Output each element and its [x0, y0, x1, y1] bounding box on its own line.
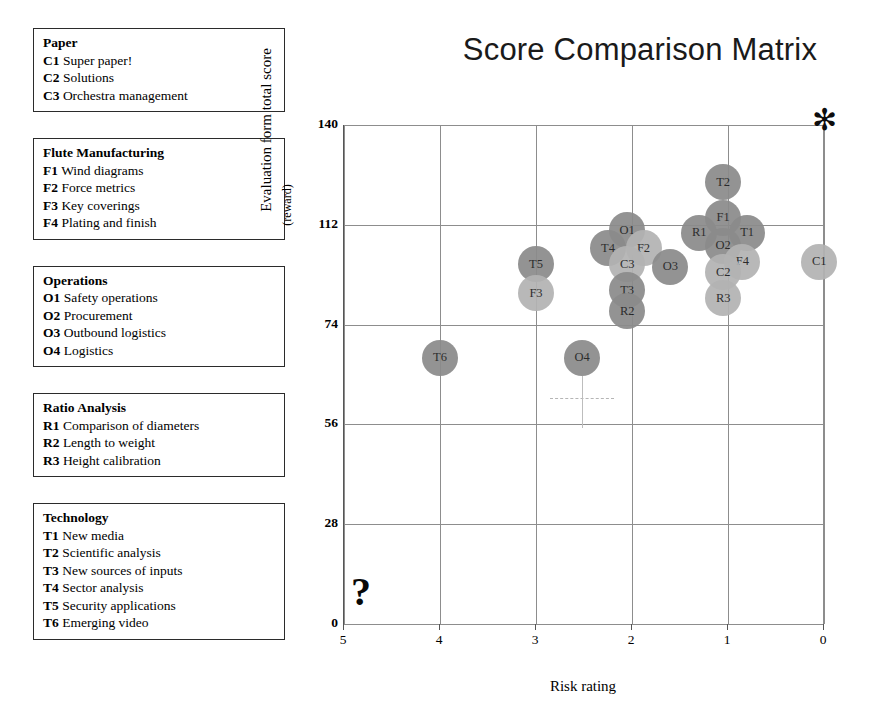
legend-item-t6: T6 Emerging video: [43, 614, 276, 632]
legend-item-code: O2: [43, 308, 60, 323]
legend-item-code: O4: [43, 343, 60, 358]
legend-item-c1: C1 Super paper!: [43, 52, 276, 70]
x-tick-label: 4: [419, 632, 459, 648]
legend-group-title: Flute Manufacturing: [43, 144, 276, 162]
legend-item-code: F1: [43, 163, 58, 178]
legend-item-f4: F4 Plating and finish: [43, 214, 276, 232]
data-bubble-t6[interactable]: T6: [422, 340, 458, 376]
bubble-label: T1: [740, 225, 754, 240]
bubble-label: C3: [620, 257, 635, 272]
bubble-label: F3: [529, 286, 542, 301]
legend-group-title: Paper: [43, 34, 276, 52]
errorbar-vertical: [582, 376, 583, 428]
legend-item-label: Wind diagrams: [61, 163, 143, 178]
data-bubble-c1[interactable]: C1: [801, 244, 837, 280]
legend-item-f1: F1 Wind diagrams: [43, 162, 276, 180]
bubble-label: R2: [620, 304, 635, 319]
data-bubble-t2[interactable]: T2: [705, 164, 741, 200]
x-tick-mark: [439, 624, 440, 630]
legend-item-label: New sources of inputs: [62, 563, 182, 578]
legend-panel: PaperC1 Super paper!C2 SolutionsC3 Orche…: [33, 28, 285, 666]
bubble-label: R3: [716, 291, 731, 306]
legend-item-code: T4: [43, 580, 59, 595]
legend-box-paper: PaperC1 Super paper!C2 SolutionsC3 Orche…: [33, 28, 285, 112]
legend-item-label: Solutions: [63, 70, 114, 85]
bubble-label: C2: [716, 265, 731, 280]
legend-item-t1: T1 New media: [43, 527, 276, 545]
legend-box-flute-manufacturing: Flute ManufacturingF1 Wind diagramsF2 Fo…: [33, 138, 285, 240]
legend-item-code: T6: [43, 615, 59, 630]
legend-item-label: Safety operations: [64, 290, 158, 305]
y-tick-label: 0: [331, 615, 338, 631]
legend-item-code: R3: [43, 453, 60, 468]
legend-box-ratio-analysis: Ratio AnalysisR1 Comparison of diameters…: [33, 393, 285, 477]
x-tick-label: 0: [803, 632, 843, 648]
y-tick-label: 28: [325, 515, 339, 531]
y-tick-label: 112: [318, 216, 338, 232]
gridline-horizontal: [344, 424, 824, 425]
legend-item-code: R1: [43, 418, 60, 433]
bubble-label: T6: [433, 350, 447, 365]
legend-item-code: C2: [43, 70, 60, 85]
x-tick-mark: [343, 624, 344, 630]
gridline-horizontal: [344, 125, 824, 126]
legend-item-label: Sector analysis: [62, 580, 143, 595]
legend-item-t5: T5 Security applications: [43, 597, 276, 615]
legend-item-label: Emerging video: [62, 615, 148, 630]
x-tick-mark: [823, 624, 824, 630]
legend-item-t4: T4 Sector analysis: [43, 579, 276, 597]
data-bubble-o3[interactable]: O3: [652, 249, 688, 285]
legend-group-title: Operations: [43, 272, 276, 290]
legend-item-code: C3: [43, 88, 60, 103]
legend-item-code: F3: [43, 198, 58, 213]
chart-title: Score Comparison Matrix: [420, 32, 860, 68]
legend-group-title: Ratio Analysis: [43, 399, 276, 417]
legend-group-title: Technology: [43, 509, 276, 527]
legend-item-r3: R3 Height calibration: [43, 452, 276, 470]
legend-item-label: Security applications: [62, 598, 176, 613]
legend-item-code: T3: [43, 563, 59, 578]
legend-item-code: T1: [43, 528, 59, 543]
legend-item-label: Plating and finish: [61, 215, 156, 230]
star-marker[interactable]: ✻: [812, 111, 837, 129]
legend-item-o3: O3 Outbound logistics: [43, 324, 276, 342]
legend-item-label: Force metrics: [61, 180, 135, 195]
legend-item-label: New media: [62, 528, 124, 543]
plot-area: T2F1R1T1O2F4C2R3C1O1T4F2C3T3R2O3T5F3T6O4…: [343, 125, 824, 625]
legend-item-c2: C2 Solutions: [43, 69, 276, 87]
legend-item-o4: O4 Logistics: [43, 342, 276, 360]
legend-item-label: Procurement: [64, 308, 133, 323]
data-bubble-r3[interactable]: R3: [705, 280, 741, 316]
gridline-horizontal: [344, 325, 824, 326]
data-bubble-f3[interactable]: F3: [518, 275, 554, 311]
y-tick-label: 140: [318, 116, 338, 132]
legend-item-code: F2: [43, 180, 58, 195]
y-axis-ticks: 1401127456280: [300, 18, 338, 710]
legend-item-label: Scientific analysis: [62, 545, 161, 560]
legend-item-label: Key coverings: [61, 198, 139, 213]
question-mark-marker[interactable]: ?: [351, 575, 371, 609]
legend-item-r1: R1 Comparison of diameters: [43, 417, 276, 435]
x-axis-label: Risk rating: [343, 678, 823, 695]
legend-item-label: Orchestra management: [63, 88, 188, 103]
y-axis-sublabel: (reward): [280, 130, 295, 280]
gridline-vertical: [824, 125, 825, 624]
legend-item-o1: O1 Safety operations: [43, 289, 276, 307]
gridline-vertical: [344, 125, 345, 624]
x-tick-mark: [631, 624, 632, 630]
legend-box-operations: OperationsO1 Safety operationsO2 Procure…: [33, 266, 285, 368]
gridline-horizontal: [344, 524, 824, 525]
legend-item-label: Outbound logistics: [64, 325, 166, 340]
bubble-label: T5: [529, 257, 543, 272]
y-axis-label: Evaluation form total score: [258, 10, 275, 250]
legend-item-code: O3: [43, 325, 60, 340]
x-tick-label: 2: [611, 632, 651, 648]
legend-item-code: T2: [43, 545, 59, 560]
data-bubble-o4[interactable]: O4: [564, 340, 600, 376]
legend-item-code: O1: [43, 290, 60, 305]
legend-item-code: C1: [43, 53, 60, 68]
bubble-label: C1: [812, 254, 827, 269]
bubble-label: R1: [692, 225, 707, 240]
legend-item-t3: T3 New sources of inputs: [43, 562, 276, 580]
legend-item-label: Length to weight: [63, 435, 155, 450]
